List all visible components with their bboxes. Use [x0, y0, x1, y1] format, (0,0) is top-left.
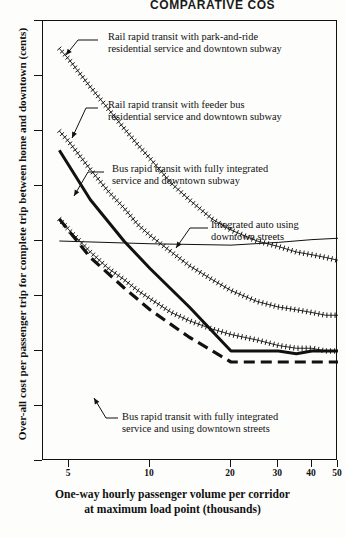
series-hatch	[165, 246, 168, 250]
series-hatch	[188, 264, 191, 269]
series-hatch	[227, 287, 230, 292]
series-hatch	[136, 288, 139, 292]
series-hatch	[195, 268, 198, 273]
series-hatch	[299, 250, 300, 255]
series-hatch	[282, 305, 283, 310]
y-tick	[34, 130, 42, 131]
y-tick	[34, 295, 42, 296]
series-hatch	[78, 155, 82, 158]
series-hatch	[140, 291, 143, 295]
y-axis-label: Over-all cost per passenger trip for com…	[16, 24, 28, 444]
series-hatch	[286, 306, 287, 311]
x-tick	[230, 460, 231, 467]
series-hatch	[266, 301, 267, 306]
series-hatch	[253, 337, 254, 342]
series-hatch	[265, 340, 266, 345]
series-hatch	[258, 299, 259, 304]
series-hatch	[152, 236, 155, 240]
x-tick	[68, 460, 69, 467]
annotation-integrated-auto: Integrated auto using downtown streets	[211, 219, 299, 244]
chart-figure: COMPARATIVE COS Over-all cost per passen…	[0, 0, 345, 538]
series-hatch	[290, 306, 291, 311]
series-hatch	[147, 295, 150, 299]
x-tick-label: 40	[299, 468, 323, 478]
series-hatch	[237, 333, 238, 338]
series-hatch	[117, 273, 120, 277]
series-hatch	[192, 266, 195, 271]
x-axis-label-line2: at maximum load point (thousands)	[0, 503, 345, 518]
series-hatch	[249, 336, 250, 341]
series-hatch	[269, 341, 270, 346]
x-tick	[149, 460, 150, 467]
series-hatch	[209, 276, 212, 281]
annotation-rail-feeder-bus: Rail rapid transit with feeder bus resid…	[108, 99, 282, 124]
series-hatch	[113, 271, 116, 275]
series-hatch	[314, 310, 315, 315]
series-hatch	[81, 158, 85, 161]
y-tick	[34, 350, 42, 351]
series-hatch	[172, 251, 175, 255]
series-hatch	[302, 308, 303, 313]
series-hatch	[262, 300, 263, 305]
series-hatch	[294, 345, 295, 350]
series-hatch	[311, 252, 312, 257]
series-hatch	[281, 343, 282, 348]
series-hatch	[168, 249, 171, 253]
series-hatch	[216, 281, 219, 286]
series-hatch	[323, 254, 324, 259]
series-hatch	[120, 276, 123, 280]
series-hatch	[167, 309, 170, 314]
x-tick-label: 10	[137, 468, 161, 478]
chart-title: COMPARATIVE COS	[150, 0, 345, 10]
series-hatch	[289, 345, 290, 350]
series-hatch	[86, 164, 90, 167]
series-hatch	[157, 302, 160, 307]
series-hatch	[233, 332, 234, 337]
x-tick	[337, 460, 338, 467]
series-hatch	[143, 293, 146, 297]
series-hatch	[319, 254, 320, 259]
series-hatch	[78, 72, 82, 75]
series-hatch	[277, 343, 278, 348]
series-hatch	[318, 311, 319, 316]
y-tick	[34, 460, 42, 461]
series-hatch	[76, 151, 80, 154]
x-tick-label: 5	[56, 468, 80, 478]
series-hatch	[178, 256, 181, 260]
series-hatch	[164, 306, 167, 311]
series-hatch	[185, 261, 188, 265]
series-hatch	[327, 255, 328, 260]
series-hatch	[245, 335, 246, 340]
x-tick-label: 20	[218, 468, 242, 478]
x-tick	[277, 460, 278, 467]
series-hatch	[275, 243, 276, 248]
y-tick	[34, 75, 42, 76]
annotation-rail-park-and-ride: Rail rapid transit with park-and-ride re…	[108, 31, 282, 56]
series-hatch	[335, 257, 336, 262]
series-hatch	[76, 69, 80, 72]
series-hatch	[331, 256, 332, 261]
series-hatch	[160, 304, 163, 309]
y-tick	[34, 405, 42, 406]
series-hatch	[261, 339, 262, 344]
series-hatch	[150, 297, 153, 302]
series-hatch	[155, 239, 158, 243]
x-axis-label: One-way hourly passenger volume per corr…	[0, 488, 345, 517]
series-hatch	[315, 253, 316, 258]
x-tick-label: 50	[325, 468, 345, 478]
series-hatch	[322, 312, 323, 317]
series-hatch	[285, 344, 286, 349]
series-hatch	[310, 310, 311, 315]
series-hatch	[273, 342, 274, 347]
series-hatch	[298, 308, 299, 313]
series-hatch	[278, 304, 279, 309]
annotation-bus-streets: Bus rapid transit with fully integrated …	[122, 411, 278, 436]
series-hatch	[73, 66, 77, 69]
series-hatch	[307, 251, 308, 256]
series-hatch	[83, 161, 87, 164]
series-hatch	[175, 254, 178, 258]
x-tick	[311, 460, 312, 467]
series-hatch	[68, 59, 72, 62]
series-hatch	[110, 269, 113, 273]
series-hatch	[202, 272, 205, 277]
